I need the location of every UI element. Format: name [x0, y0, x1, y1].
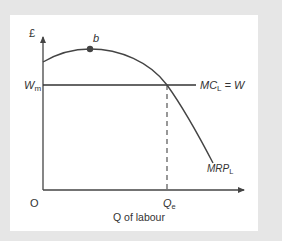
wm-label: Wm [24, 79, 41, 93]
y-axis-label-currency: £ [29, 27, 35, 39]
figure-frame: £ b Wm MCL = W MRPL O Qe Q of labour [0, 0, 282, 241]
point-b-marker [87, 46, 93, 52]
mrp-main: MRP [207, 163, 230, 174]
wm-sub: m [34, 84, 41, 93]
mrp-curve [43, 49, 213, 163]
x-axis-title: Q of labour [113, 211, 165, 223]
mc-main: MC [200, 79, 217, 91]
mrp-sub: L [229, 167, 233, 176]
mc-label: MCL = W [200, 79, 246, 93]
mrp-diagram: £ b Wm MCL = W MRPL O Qe Q of labour [0, 0, 282, 241]
point-b-label: b [93, 32, 99, 44]
qe-label: Qe [163, 197, 176, 211]
qe-sub: e [172, 202, 176, 211]
origin-label: O [30, 197, 39, 209]
mrp-label: MRPL [207, 163, 233, 176]
mc-rest: = W [222, 79, 247, 91]
